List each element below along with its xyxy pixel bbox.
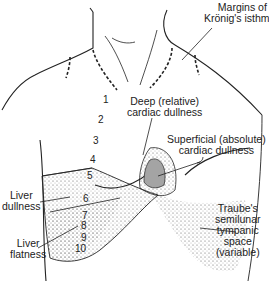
label-traube-space: Traube's semilunar tympanic space (varia…	[215, 203, 261, 258]
rib-3: 3	[93, 135, 99, 146]
kronig-margin-left-b	[93, 50, 117, 90]
label-liver-flatness: Liver flatness	[10, 238, 46, 260]
rib-9: 9	[81, 232, 87, 243]
rib-1: 1	[103, 94, 109, 105]
kronig-margin-right-b	[195, 55, 199, 75]
kronig-margin-right-a	[150, 48, 172, 88]
neck-left	[90, 8, 93, 12]
label-liver-dullness: Liver dullness	[2, 190, 41, 212]
label-superficial-cardiac-dullness: Superficial (absolute) cardiac dullness	[167, 134, 266, 156]
label-kronig-isthmus: Margins of Krönig's isthmus	[204, 2, 269, 24]
rib-4: 4	[90, 154, 96, 165]
rib-6: 6	[83, 193, 89, 204]
rib-10: 10	[75, 243, 86, 254]
label-deep-cardiac-dullness: Deep (relative) cardiac dullness	[127, 96, 202, 118]
rib-2: 2	[98, 114, 104, 125]
left-shoulder-outline	[2, 12, 93, 110]
rib-5: 5	[87, 170, 93, 181]
rib-8: 8	[81, 220, 87, 231]
